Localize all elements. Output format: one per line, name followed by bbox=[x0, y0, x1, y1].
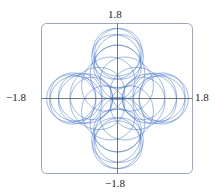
y-axis-min-label: −1.8 bbox=[105, 178, 125, 189]
x-axis-max-label: 1.8 bbox=[195, 92, 209, 103]
plot-area bbox=[0, 0, 215, 195]
x-axis-min-label: −1.8 bbox=[6, 92, 26, 103]
y-axis-max-label: 1.8 bbox=[108, 9, 122, 20]
